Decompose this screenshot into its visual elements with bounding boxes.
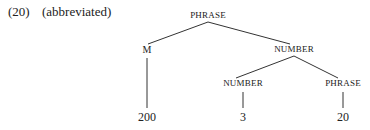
edge-root-m: [148, 22, 208, 44]
tree-edges: [0, 0, 370, 130]
leaf-200: 200: [138, 110, 156, 125]
edge-number-phrase: [294, 56, 338, 78]
node-number: NUMBER: [274, 44, 314, 54]
edge-root-number: [208, 22, 290, 44]
leaf-20: 20: [337, 110, 349, 125]
node-child-number: NUMBER: [223, 78, 263, 88]
node-m: M: [142, 44, 151, 55]
leaf-3: 3: [240, 110, 246, 125]
node-child-phrase: PHRASE: [325, 78, 361, 88]
edge-number-number: [236, 56, 294, 78]
node-root-phrase: PHRASE: [190, 10, 226, 20]
